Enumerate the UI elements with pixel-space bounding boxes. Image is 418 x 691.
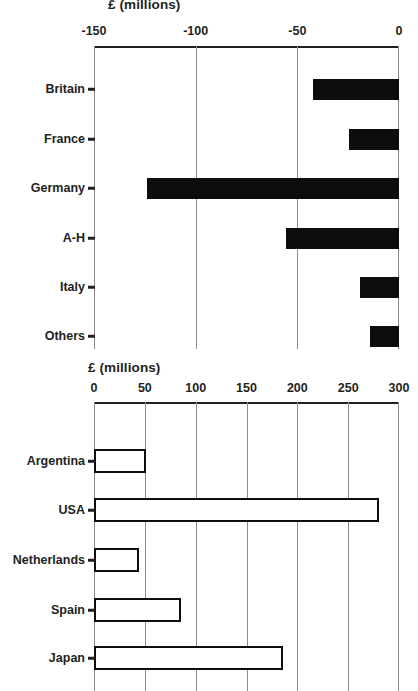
tick-label: 150 bbox=[236, 381, 257, 395]
category-label: Italy bbox=[60, 280, 85, 294]
bar bbox=[147, 178, 399, 199]
tick-label: -150 bbox=[81, 24, 106, 38]
category-tick bbox=[88, 460, 95, 463]
category-label: Britain bbox=[45, 82, 85, 96]
top-axis-title: £ (millions) bbox=[108, 0, 180, 12]
category-label: A-H bbox=[63, 231, 85, 245]
tick-label: 0 bbox=[396, 24, 403, 38]
gridline bbox=[398, 402, 399, 691]
bottom-axis-title: £ (millions) bbox=[88, 360, 160, 375]
tick-label: -100 bbox=[183, 24, 208, 38]
category-label: Spain bbox=[51, 603, 85, 617]
category-label: Netherlands bbox=[13, 553, 85, 567]
gridline bbox=[297, 402, 298, 691]
bar bbox=[370, 326, 399, 347]
tick-label: 300 bbox=[389, 381, 410, 395]
bottom-plot-area bbox=[94, 402, 399, 691]
bar bbox=[360, 277, 399, 298]
category-label: Others bbox=[45, 329, 85, 343]
tick-label: 250 bbox=[338, 381, 359, 395]
tick-label: 0 bbox=[91, 381, 98, 395]
category-tick bbox=[88, 657, 95, 660]
category-tick bbox=[88, 88, 95, 91]
bar bbox=[349, 129, 399, 150]
bar bbox=[94, 548, 139, 572]
tick-label: 200 bbox=[287, 381, 308, 395]
top-plot-area bbox=[94, 46, 399, 349]
category-label: Japan bbox=[49, 651, 85, 665]
bottom-chart-panel: £ (millions) 050100150200250300 Argentin… bbox=[0, 355, 418, 691]
bar bbox=[94, 498, 379, 522]
gridline bbox=[348, 402, 349, 691]
gridline bbox=[94, 46, 95, 349]
category-tick bbox=[88, 187, 95, 190]
category-tick bbox=[88, 286, 95, 289]
category-tick bbox=[88, 559, 95, 562]
bar bbox=[313, 79, 399, 100]
tick-label: 100 bbox=[185, 381, 206, 395]
tick-label: 50 bbox=[138, 381, 152, 395]
two-panel-bar-chart-figure: £ (millions) -150-100-500 BritainFranceG… bbox=[0, 0, 418, 691]
bar bbox=[94, 449, 146, 473]
bar bbox=[94, 646, 283, 670]
category-label: Argentina bbox=[27, 454, 85, 468]
category-label: France bbox=[44, 132, 85, 146]
category-label: Germany bbox=[31, 181, 85, 195]
category-label: USA bbox=[59, 503, 85, 517]
category-tick bbox=[88, 138, 95, 141]
top-chart-panel: £ (millions) -150-100-500 BritainFranceG… bbox=[0, 0, 418, 355]
category-tick bbox=[88, 335, 95, 338]
bar bbox=[286, 228, 399, 249]
bar bbox=[94, 598, 181, 622]
category-tick bbox=[88, 609, 95, 612]
tick-label: -50 bbox=[288, 24, 306, 38]
category-tick bbox=[88, 237, 95, 240]
category-tick bbox=[88, 509, 95, 512]
